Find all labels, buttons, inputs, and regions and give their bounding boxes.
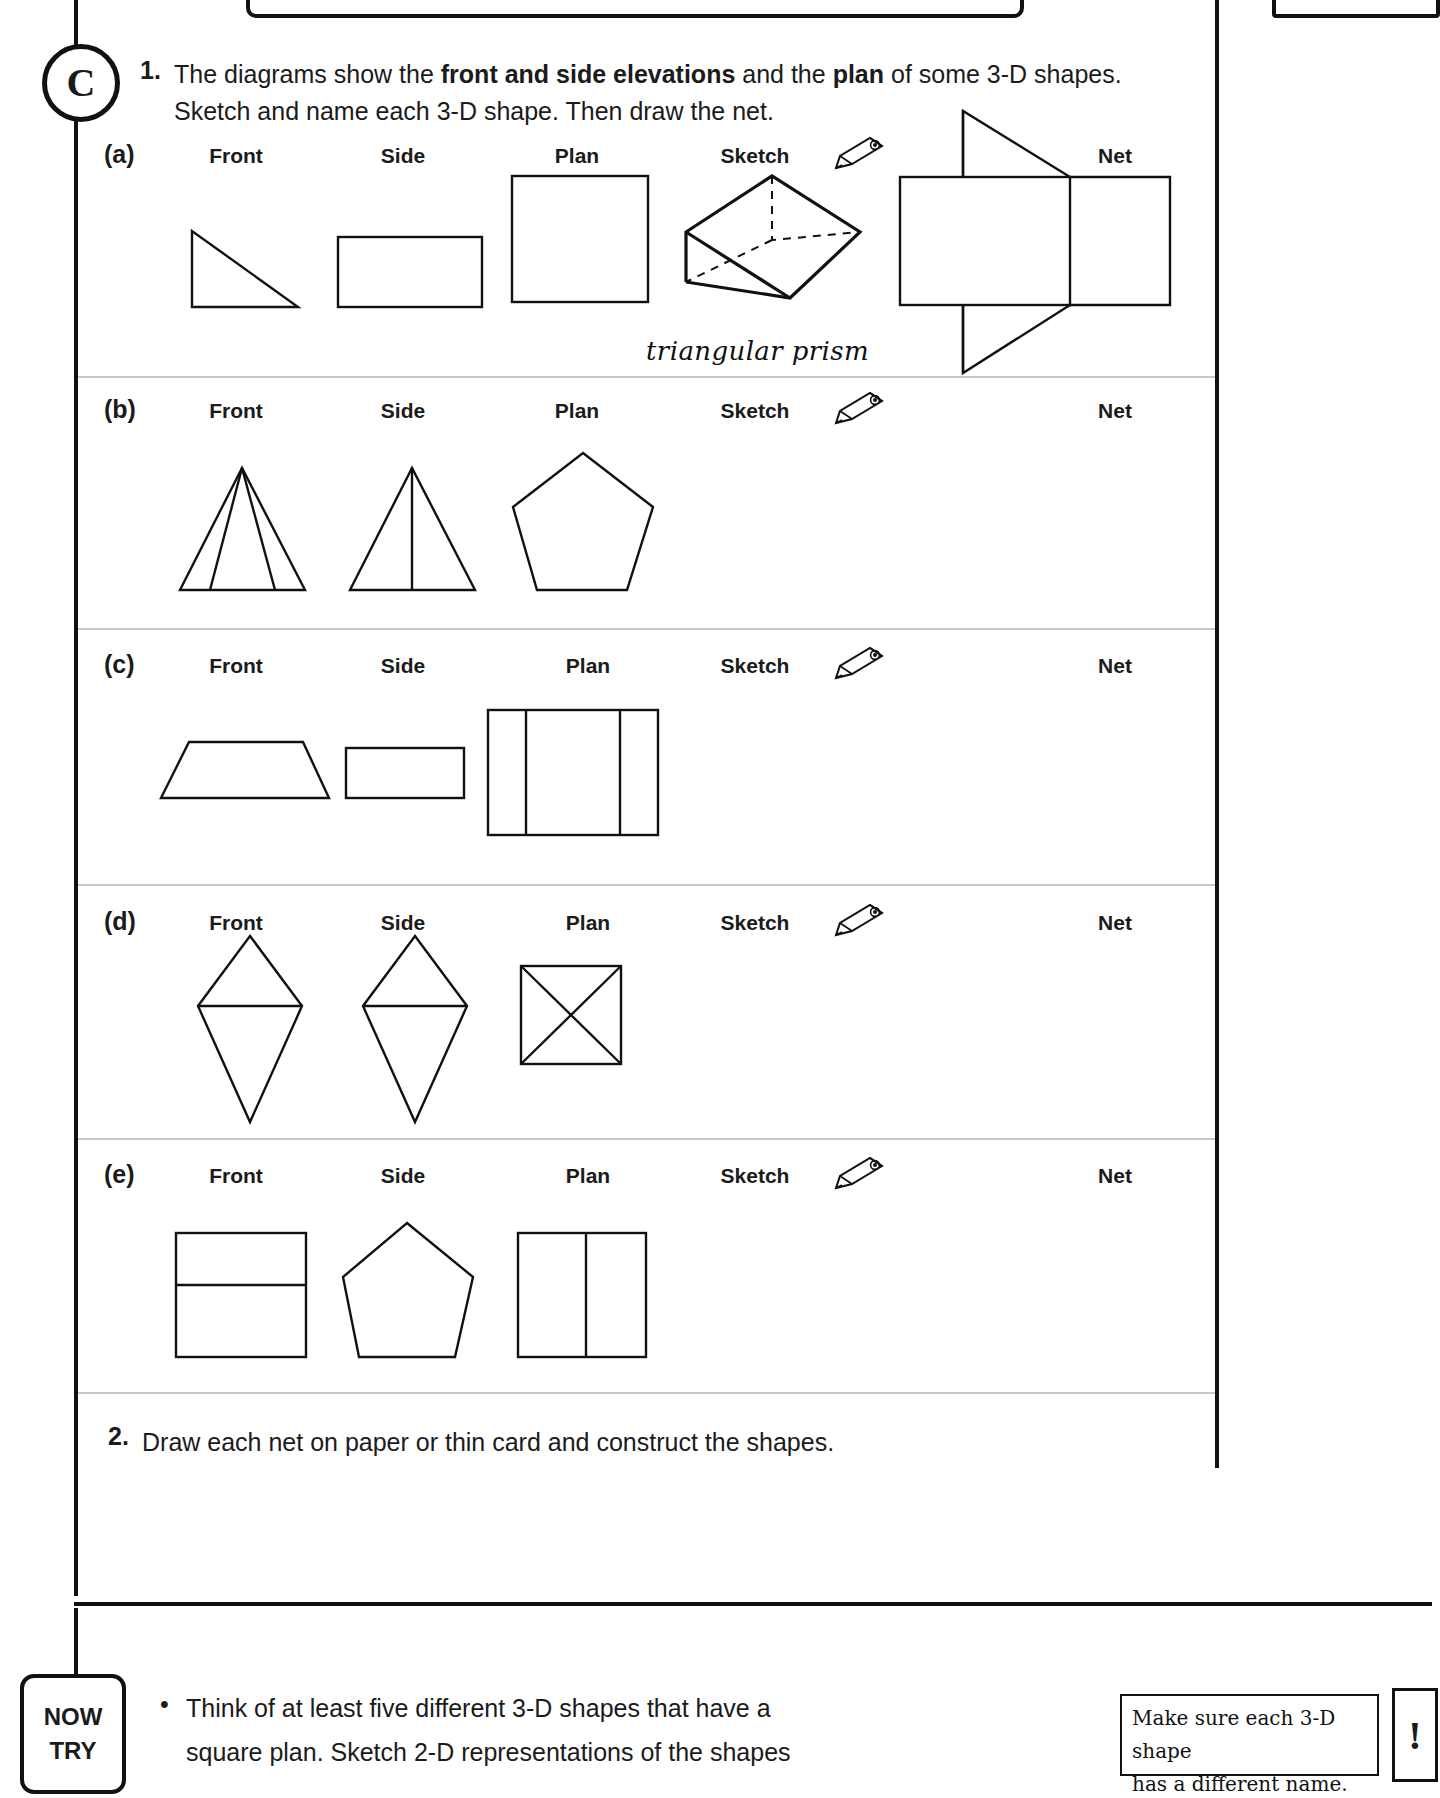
shape-front-b [170, 460, 315, 600]
top-corner-box [1272, 0, 1440, 18]
shape-front-c [155, 730, 335, 810]
shape-plan-c [480, 700, 670, 845]
section-divider-rule [74, 1602, 1432, 1606]
row-label-e: (e) [104, 1160, 135, 1189]
col-head-net-d: Net [1060, 911, 1170, 935]
shape-net-a [890, 105, 1190, 380]
shape-side-c [340, 740, 470, 810]
shape-front-e [170, 1225, 315, 1365]
col-head-side-a: Side [348, 144, 458, 168]
now-try-line1: NOW [44, 1700, 103, 1734]
q1-line1-part3: of some 3-D shapes. [884, 60, 1122, 88]
col-head-plan-b: Plan [522, 399, 632, 423]
row-separator-c [78, 884, 1215, 886]
col-head-plan-c: Plan [533, 654, 643, 678]
tip-line1: Make sure each 3-D shape [1132, 1706, 1335, 1763]
col-head-sketch-b: Sketch [700, 399, 810, 423]
pencil-icon [830, 389, 888, 429]
q1-bold-elevations: front and side elevations [441, 60, 736, 88]
col-head-front-a: Front [176, 144, 296, 168]
now-try-line2: TRY [49, 1734, 96, 1768]
question-2-number: 2. [108, 1422, 129, 1451]
top-header-box [246, 0, 1024, 18]
question-1-number: 1. [140, 56, 161, 85]
warning-icon: ! [1392, 1688, 1438, 1782]
row-label-a: (a) [104, 140, 135, 169]
q1-line1-part1: The diagrams show the [174, 60, 441, 88]
pencil-icon [830, 1154, 888, 1194]
col-head-sketch-e: Sketch [700, 1164, 810, 1188]
tip-line2: has a different name. [1132, 1772, 1348, 1796]
shape-side-e [335, 1215, 480, 1365]
shape-side-a [330, 225, 490, 315]
shape-side-b [340, 460, 485, 600]
tip-text: Make sure each 3-D shape has a different… [1132, 1702, 1377, 1798]
q1-line1-part2: and the [735, 60, 832, 88]
row-label-b: (b) [104, 395, 136, 424]
now-try-text-line2: square plan. Sketch 2-D representations … [186, 1738, 791, 1766]
col-head-sketch-c: Sketch [700, 654, 810, 678]
col-head-net-b: Net [1060, 399, 1170, 423]
shape-front-d [190, 930, 310, 1130]
shape-sketch-a [670, 170, 870, 320]
col-head-side-e: Side [348, 1164, 458, 1188]
q1-bold-plan: plan [833, 60, 884, 88]
now-try-badge: NOW TRY [20, 1674, 126, 1794]
col-head-net-e: Net [1060, 1164, 1170, 1188]
now-try-text-line1: Think of at least five different 3-D sha… [186, 1694, 771, 1722]
pencil-icon [830, 644, 888, 684]
col-head-front-e: Front [176, 1164, 296, 1188]
now-try-bullet: • [160, 1690, 169, 1719]
right-margin-rule [1215, 0, 1219, 1468]
pencil-icon [830, 134, 888, 174]
col-head-side-b: Side [348, 399, 458, 423]
now-try-text: Think of at least five different 3-D sha… [186, 1686, 1016, 1774]
col-head-front-c: Front [176, 654, 296, 678]
col-head-sketch-d: Sketch [700, 911, 810, 935]
answer-a[interactable]: triangular prism [646, 336, 869, 366]
question-2-text: Draw each net on paper or thin card and … [142, 1424, 1192, 1461]
shape-plan-b [505, 445, 665, 605]
shape-plan-a [500, 160, 660, 320]
col-head-plan-e: Plan [533, 1164, 643, 1188]
shape-plan-d [515, 960, 630, 1070]
col-head-plan-d: Plan [533, 911, 643, 935]
q1-line2: Sketch and name each 3-D shape. Then dra… [174, 97, 774, 125]
level-badge: C [42, 44, 120, 122]
row-label-c: (c) [104, 650, 135, 679]
col-head-front-b: Front [176, 399, 296, 423]
col-head-side-c: Side [348, 654, 458, 678]
pencil-icon [830, 901, 888, 941]
row-separator-d [78, 1138, 1215, 1140]
row-separator-e [78, 1392, 1215, 1394]
row-separator-b [78, 628, 1215, 630]
col-head-net-c: Net [1060, 654, 1170, 678]
shape-side-d [355, 930, 475, 1130]
shape-plan-e [510, 1225, 660, 1365]
left-margin-rule [74, 0, 78, 1596]
col-head-sketch-a: Sketch [700, 144, 810, 168]
shape-front-a [180, 225, 310, 315]
row-label-d: (d) [104, 907, 136, 936]
